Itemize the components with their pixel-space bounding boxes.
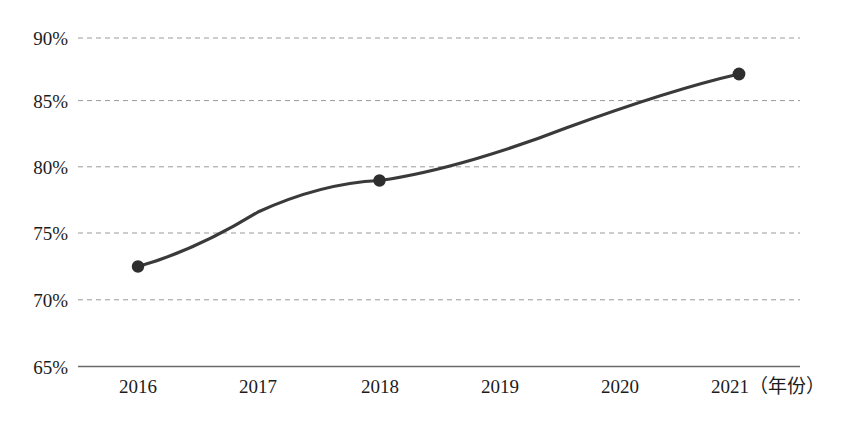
y-tick-label-90: 90% [18, 29, 68, 48]
x-tick-label-2017: 2017 [239, 377, 277, 396]
y-tick-label-70: 70% [18, 290, 68, 309]
x-tick-label-2020: 2020 [601, 377, 639, 396]
x-tick-label-2019: 2019 [481, 377, 519, 396]
y-tick-label-85: 85% [18, 91, 68, 110]
data-point-2021[interactable] [733, 68, 746, 81]
x-axis-unit-label: （年份） [749, 376, 825, 397]
data-series [138, 74, 739, 267]
x-tick-label-2021-with-unit: 2021（年份） [711, 377, 825, 396]
series-line [138, 74, 739, 267]
data-point-2016[interactable] [132, 260, 144, 272]
line-chart: 90% 85% 80% 75% 70% 65% 2016 2017 2018 2… [0, 0, 852, 424]
x-tick-label-2018: 2018 [361, 377, 399, 396]
chart-canvas [0, 0, 852, 424]
x-tick-label-2016: 2016 [119, 377, 157, 396]
y-tick-label-75: 75% [18, 224, 68, 243]
data-point-2018[interactable] [373, 174, 385, 186]
x-tick-label-2021: 2021 [711, 376, 749, 397]
y-tick-label-65: 65% [18, 357, 68, 376]
y-tick-label-80: 80% [18, 157, 68, 176]
